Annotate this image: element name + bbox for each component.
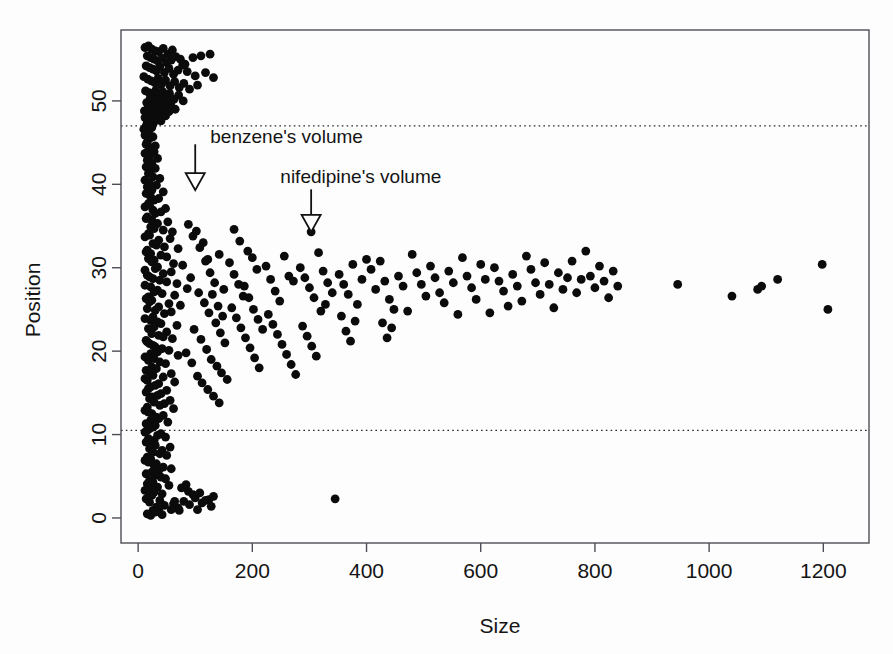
data-point bbox=[223, 375, 232, 384]
data-point bbox=[153, 154, 162, 163]
data-point bbox=[351, 317, 360, 326]
data-point bbox=[170, 497, 179, 506]
data-point bbox=[321, 300, 330, 309]
data-point bbox=[278, 340, 287, 349]
data-point bbox=[300, 273, 309, 282]
data-point bbox=[818, 260, 827, 269]
data-point bbox=[168, 334, 177, 343]
data-point bbox=[403, 307, 412, 316]
data-point bbox=[417, 280, 426, 289]
data-point bbox=[394, 272, 403, 281]
data-point bbox=[165, 299, 174, 308]
data-point bbox=[152, 241, 161, 250]
data-point bbox=[154, 331, 163, 340]
data-point bbox=[151, 264, 160, 273]
annotation-arrow-head-0 bbox=[186, 173, 205, 190]
data-point bbox=[481, 275, 490, 284]
data-point bbox=[335, 270, 344, 279]
data-point bbox=[165, 481, 174, 490]
data-point bbox=[141, 314, 150, 323]
data-point bbox=[495, 277, 504, 286]
data-point bbox=[225, 258, 234, 267]
data-point bbox=[472, 295, 481, 304]
data-point bbox=[192, 227, 201, 236]
data-point bbox=[145, 201, 154, 210]
data-point bbox=[145, 231, 154, 240]
data-point bbox=[572, 288, 581, 297]
data-point bbox=[232, 313, 241, 322]
data-point bbox=[248, 253, 257, 262]
data-point bbox=[291, 370, 300, 379]
data-point bbox=[559, 285, 568, 294]
y-tick-label: 20 bbox=[88, 339, 111, 362]
data-point bbox=[185, 85, 194, 94]
data-point bbox=[167, 369, 176, 378]
data-point bbox=[142, 214, 151, 223]
data-point bbox=[380, 277, 389, 286]
data-point bbox=[217, 368, 226, 377]
data-point bbox=[162, 278, 171, 287]
data-points-group bbox=[139, 41, 832, 519]
data-point bbox=[190, 325, 199, 334]
data-point bbox=[245, 293, 254, 302]
data-point bbox=[218, 312, 227, 321]
data-point bbox=[167, 268, 176, 277]
data-point bbox=[376, 257, 385, 266]
data-point bbox=[189, 53, 198, 62]
data-point bbox=[275, 297, 284, 306]
data-point bbox=[600, 277, 609, 286]
data-point bbox=[773, 275, 782, 284]
data-point bbox=[353, 300, 362, 309]
data-point bbox=[298, 322, 307, 331]
data-point bbox=[158, 510, 167, 519]
data-point bbox=[170, 378, 179, 387]
data-point bbox=[194, 288, 203, 297]
data-point bbox=[174, 351, 183, 360]
data-point bbox=[323, 278, 332, 287]
data-point bbox=[586, 272, 595, 281]
data-point bbox=[536, 290, 545, 299]
data-point bbox=[197, 51, 206, 60]
data-point bbox=[241, 333, 250, 342]
data-point bbox=[160, 242, 169, 251]
data-point bbox=[371, 285, 380, 294]
data-point bbox=[613, 282, 622, 291]
x-tick-label: 1000 bbox=[686, 559, 733, 582]
data-point bbox=[182, 348, 191, 357]
data-point bbox=[453, 310, 462, 319]
data-point bbox=[195, 489, 204, 498]
data-point bbox=[367, 265, 376, 274]
x-tick-label: 1200 bbox=[800, 559, 847, 582]
data-point bbox=[235, 237, 244, 246]
data-point bbox=[253, 265, 262, 274]
data-point bbox=[412, 268, 421, 277]
data-point bbox=[219, 285, 228, 294]
data-point bbox=[264, 310, 273, 319]
data-point bbox=[604, 293, 613, 302]
data-point bbox=[187, 358, 196, 367]
data-point bbox=[153, 431, 162, 440]
data-point bbox=[202, 345, 211, 354]
x-axis-ticks-group: 020040060080010001200 bbox=[132, 543, 846, 582]
data-point bbox=[499, 287, 508, 296]
y-axis-title: Position bbox=[21, 263, 44, 338]
data-point bbox=[206, 268, 215, 277]
data-point bbox=[210, 278, 219, 287]
data-point bbox=[203, 385, 212, 394]
data-point bbox=[305, 283, 314, 292]
data-point bbox=[176, 301, 185, 310]
data-point bbox=[161, 433, 170, 442]
data-point bbox=[209, 392, 218, 401]
data-point bbox=[378, 318, 387, 327]
y-tick-label: 10 bbox=[88, 423, 111, 446]
data-point bbox=[307, 342, 316, 351]
data-point bbox=[205, 308, 214, 317]
data-point bbox=[319, 267, 328, 276]
data-point bbox=[193, 505, 202, 514]
scatter-plot-figure: 020040060080010001200 01020304050 benzen… bbox=[0, 0, 893, 654]
data-point bbox=[170, 291, 179, 300]
data-point bbox=[581, 247, 590, 256]
data-point bbox=[273, 330, 282, 339]
data-point bbox=[167, 308, 176, 317]
data-point bbox=[387, 323, 396, 332]
